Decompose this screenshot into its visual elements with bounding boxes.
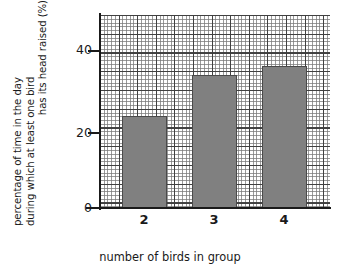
y-tick-mark-40 (88, 50, 100, 52)
y-axis-title-line-1: percentage of time in the day (12, 77, 24, 226)
y-axis-tick-labels: 0 20 40 (62, 0, 92, 225)
x-tick-label-4: 4 (264, 212, 304, 227)
x-tick-label-3: 3 (194, 212, 234, 227)
y-axis-title-line-2: during which at least one bird (25, 77, 37, 226)
y-axis-title-text: percentage of time in the day during whi… (0, 0, 62, 226)
y-axis-line (99, 13, 101, 210)
y-axis-title-line-3: has its head raised (%) (37, 0, 49, 115)
x-axis-line (86, 207, 331, 209)
y-axis-title: percentage of time in the day during whi… (0, 0, 62, 225)
bar-chart-figure: percentage of time in the day during whi… (0, 0, 340, 280)
y-tick-mark-20 (88, 132, 100, 134)
bar-category-4 (262, 66, 307, 208)
x-axis-title: number of birds in group (0, 250, 340, 264)
y-tick-mark-0 (88, 207, 100, 209)
x-tick-label-2: 2 (124, 212, 164, 227)
bar-category-2 (122, 116, 167, 208)
bar-category-3 (192, 75, 237, 208)
plot-area (100, 15, 330, 208)
